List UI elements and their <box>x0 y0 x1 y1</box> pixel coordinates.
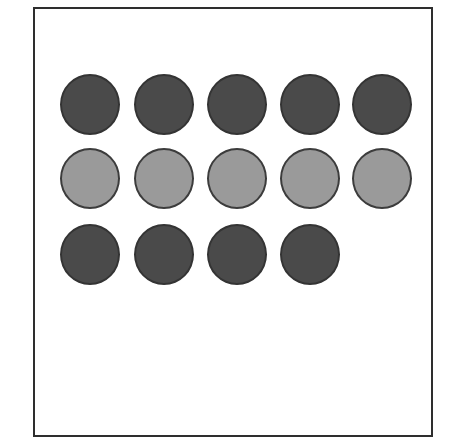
dot-row <box>35 74 435 136</box>
dot-circle <box>134 148 194 209</box>
dot-circle <box>280 148 340 209</box>
dot-row <box>35 224 435 286</box>
dot-circle <box>280 74 340 135</box>
dot-circle <box>207 74 267 135</box>
dot-grid <box>35 9 435 439</box>
dot-circle <box>60 148 120 209</box>
dot-circle <box>352 74 412 135</box>
dot-circle <box>134 224 194 285</box>
figure-frame <box>33 7 433 437</box>
dot-row <box>35 148 435 210</box>
dot-circle <box>60 74 120 135</box>
dot-circle <box>60 224 120 285</box>
dot-circle <box>352 148 412 209</box>
dot-circle <box>280 224 340 285</box>
dot-circle <box>207 148 267 209</box>
dot-circle <box>207 224 267 285</box>
dot-circle <box>134 74 194 135</box>
